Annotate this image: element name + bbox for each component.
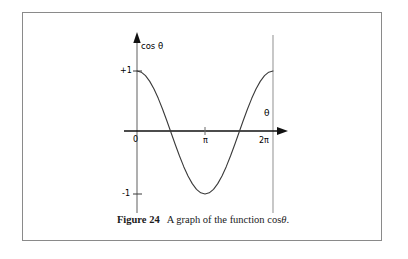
x-tick-label-zero: 0 <box>133 136 138 144</box>
caption-text: A graph of the function cos <box>167 214 282 225</box>
figure-number: Figure 24 <box>117 214 160 225</box>
cosine-plot-svg <box>23 13 383 242</box>
x-axis-arrowhead <box>277 127 288 135</box>
x-tick-label-pi: π <box>203 137 208 145</box>
plot-area: cos θ θ +1 -1 0 π 2π <box>23 13 383 242</box>
figure-caption: Figure 24A graph of the function cosθ. <box>23 213 383 227</box>
y-tick-label-minus1: -1 <box>122 190 130 198</box>
x-tick-label-2pi: 2π <box>259 137 269 145</box>
y-axis-label: cos θ <box>141 42 163 51</box>
y-axis-arrowhead <box>133 32 140 43</box>
y-tick-label-plus1: +1 <box>120 67 132 75</box>
figure-frame: cos θ θ +1 -1 0 π 2π Figure 24A graph of… <box>22 12 382 241</box>
caption-period: . <box>286 214 289 225</box>
figure-root: cos θ θ +1 -1 0 π 2π Figure 24A graph of… <box>0 0 408 259</box>
x-axis-label: θ <box>264 109 270 118</box>
